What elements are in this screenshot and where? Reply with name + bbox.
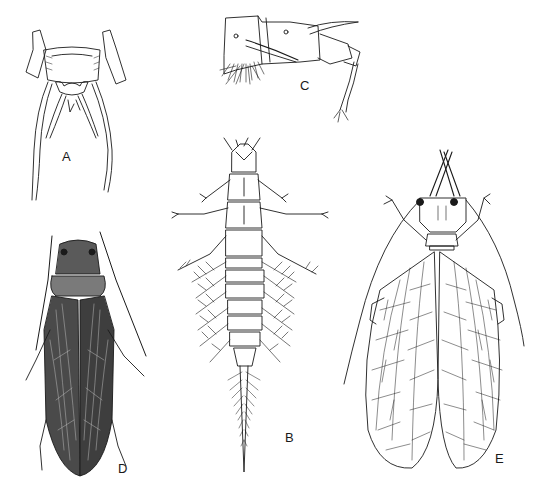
panel-e-drawing [344,150,524,468]
panel-label-a: A [62,150,71,163]
illustration-canvas [0,0,542,495]
figure-plate: A C B D E [0,0,542,495]
panel-b-drawing [172,138,328,472]
panel-d-drawing [26,232,146,476]
panel-label-d: D [118,462,127,475]
panel-label-c: C [300,79,309,92]
panel-a-drawing [26,30,126,200]
panel-label-e: E [495,452,504,465]
panel-c-drawing [220,16,360,122]
panel-label-b: B [285,431,294,444]
